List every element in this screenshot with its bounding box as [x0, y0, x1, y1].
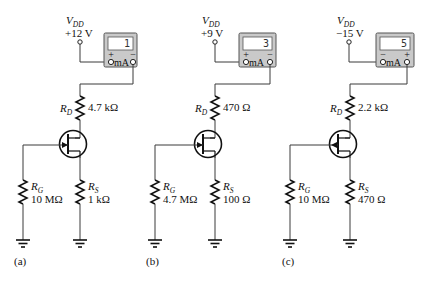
- rg-value-c: 10 MΩ: [298, 193, 330, 205]
- caption-b: (b): [146, 255, 159, 268]
- milliammeter-c: 5 − + mA: [376, 33, 414, 68]
- rd-label-b: RD: [194, 102, 208, 117]
- resistor-rg-b: [151, 180, 159, 204]
- rd-value-b: 470 Ω: [223, 101, 250, 113]
- meter-reading-c: 5: [401, 38, 407, 49]
- vdd-terminal-c: [347, 40, 351, 44]
- gate-arrow-c: [331, 142, 337, 148]
- circuit-diagram: VDD +12 V 1 + − mA RD 4.7 kΩ: [0, 0, 425, 281]
- caption-c: (c): [282, 255, 295, 268]
- milliammeter-a: 1 + − mA: [104, 33, 137, 68]
- resistor-rd-c: [346, 96, 354, 120]
- rd-label-c: RD: [329, 102, 343, 117]
- meter-reading-a: 1: [124, 38, 130, 49]
- ground-icon-rg-a: [16, 240, 30, 247]
- rd-value-c: 2.2 kΩ: [358, 101, 388, 113]
- wire-drain-a: [75, 120, 80, 138]
- vdd-value-a: +12 V: [65, 27, 93, 39]
- wire-vdd-meter-c: [349, 44, 380, 62]
- resistor-rd-b: [211, 96, 219, 120]
- resistor-rg-c: [286, 180, 294, 204]
- vdd-value-b: +9 V: [201, 27, 223, 39]
- meter-terminal-right-a: [130, 59, 135, 64]
- meter-unit-c: mA: [386, 57, 402, 68]
- wire-meter-rd-c: [350, 65, 407, 96]
- wire-meter-rd-a: [80, 65, 133, 96]
- wire-drain-c: [345, 120, 350, 138]
- vdd-terminal-b: [213, 40, 217, 44]
- ground-icon-rg-b: [148, 240, 162, 247]
- resistor-rs-a: [76, 180, 84, 204]
- ground-icon-rs-c: [343, 240, 357, 247]
- circuit-c: VDD −15 V 5 − + mA RD 2.2 kΩ: [282, 14, 414, 268]
- meter-polarity-right-a: −: [130, 49, 136, 60]
- meter-reading-b: 3: [263, 38, 269, 49]
- rs-value-a: 1 kΩ: [88, 193, 110, 205]
- caption-a: (a): [14, 255, 27, 268]
- wire-drain-b: [210, 120, 215, 138]
- jfet-a: [23, 131, 87, 159]
- rd-label-a: RD: [59, 102, 73, 117]
- vdd-value-c: −15 V: [336, 27, 364, 39]
- rg-value-b: 4.7 MΩ: [163, 193, 197, 205]
- meter-terminal-left-a: [108, 59, 113, 64]
- jfet-b: [155, 131, 222, 159]
- circuit-b: VDD +9 V 3 + − mA RD 470 Ω R: [146, 14, 276, 268]
- meter-terminal-right-c: [404, 59, 409, 64]
- resistor-rg-a: [19, 180, 27, 204]
- resistor-rs-c: [346, 180, 354, 204]
- meter-polarity-right-b: −: [267, 49, 273, 60]
- rd-value-a: 4.7 kΩ: [88, 101, 118, 113]
- meter-unit-b: mA: [249, 57, 265, 68]
- circuit-a: VDD +12 V 1 + − mA RD 4.7 kΩ: [14, 14, 137, 268]
- jfet-c: [290, 131, 357, 159]
- rs-value-b: 100 Ω: [223, 193, 250, 205]
- meter-terminal-right-b: [267, 59, 272, 64]
- resistor-rs-b: [211, 180, 219, 204]
- milliammeter-b: 3 + − mA: [239, 33, 276, 68]
- meter-unit-a: mA: [114, 57, 130, 68]
- ground-icon-rs-b: [208, 240, 222, 247]
- meter-terminal-left-b: [243, 59, 248, 64]
- ground-icon-rs-a: [73, 240, 87, 247]
- vdd-terminal-a: [78, 40, 82, 44]
- ground-icon-rg-c: [283, 240, 297, 247]
- rs-value-c: 470 Ω: [358, 193, 385, 205]
- meter-polarity-right-c: +: [404, 49, 410, 60]
- meter-terminal-left-c: [380, 59, 385, 64]
- resistor-rd-a: [76, 96, 84, 120]
- wire-meter-rd-b: [215, 65, 270, 96]
- rg-value-a: 10 MΩ: [31, 193, 63, 205]
